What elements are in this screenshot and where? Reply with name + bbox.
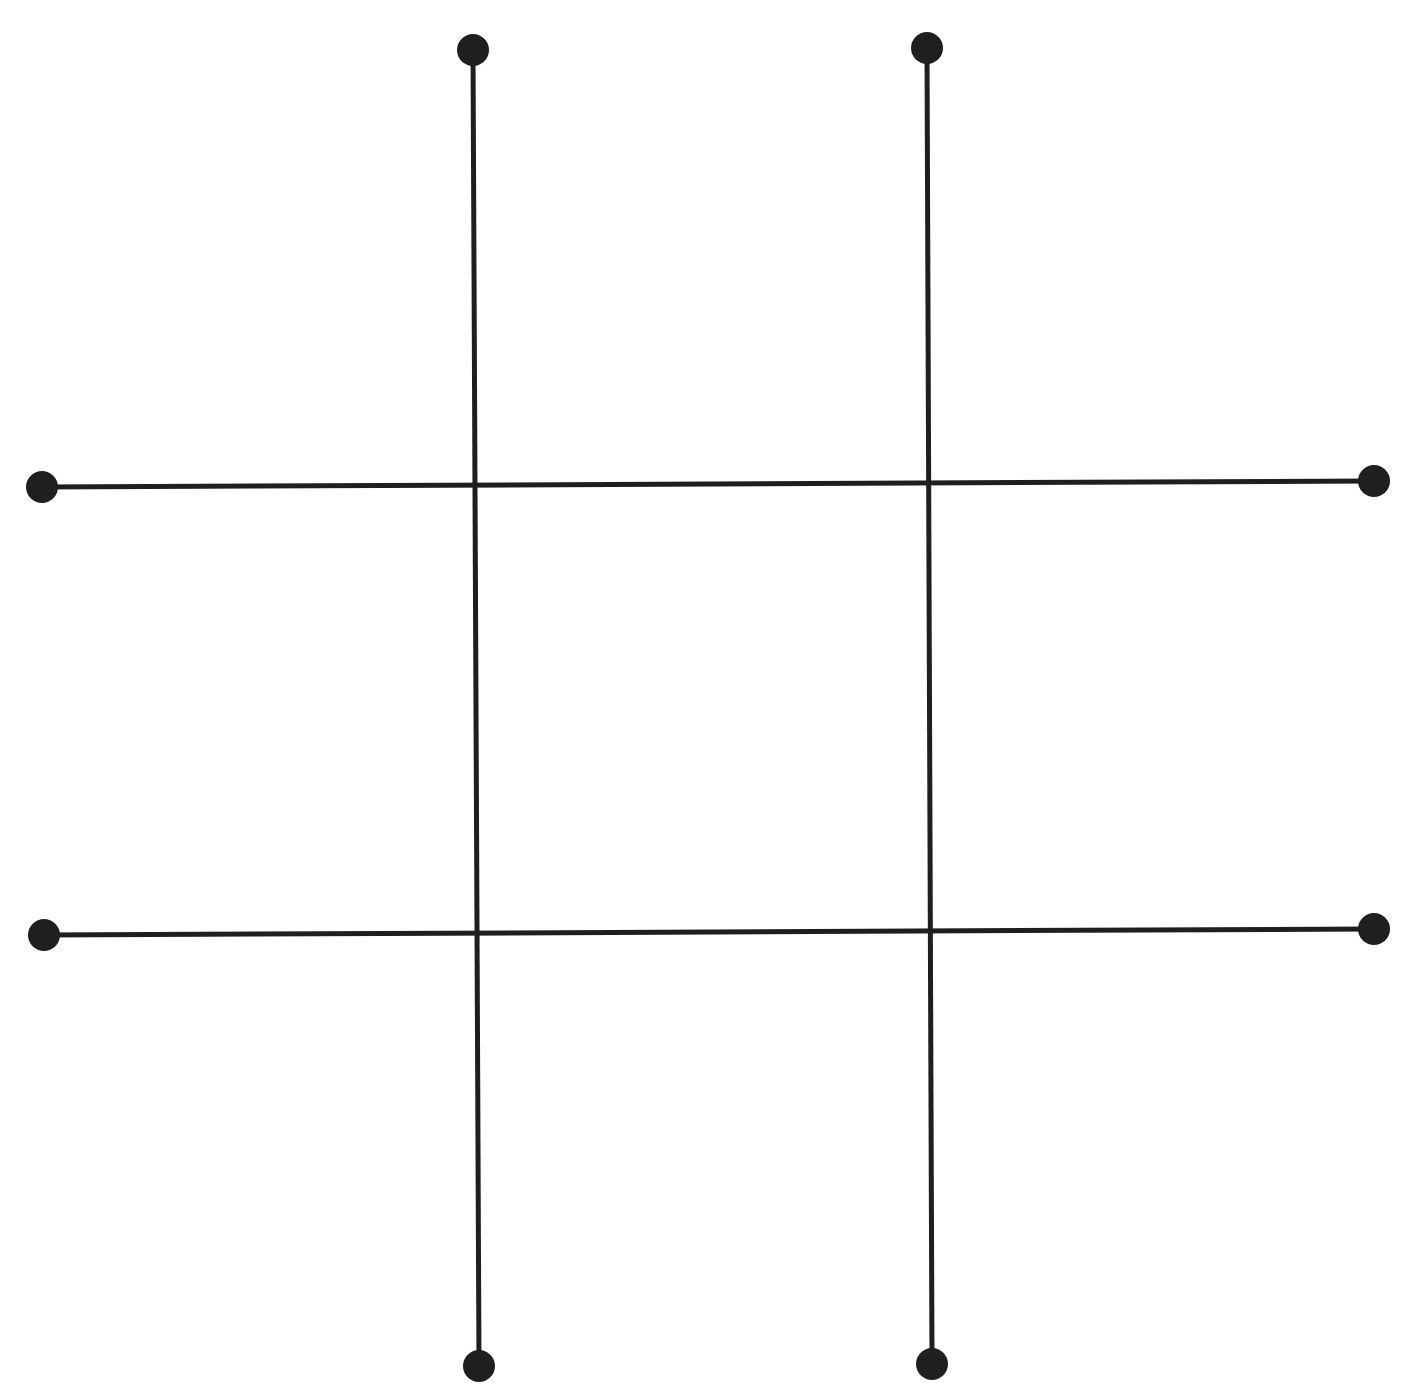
line-stroke — [42, 481, 1374, 487]
grid-line-horizontal-bottom — [28, 913, 1390, 951]
grid-line-vertical-left — [457, 34, 495, 1382]
endpoint-dot-start — [28, 919, 60, 951]
grid-line-horizontal-top — [26, 465, 1390, 503]
tic-tac-toe-grid — [0, 0, 1403, 1397]
endpoint-dot-end — [1358, 913, 1390, 945]
line-stroke — [473, 50, 479, 1366]
endpoint-dot-start — [911, 32, 943, 64]
endpoint-dot-end — [916, 1348, 948, 1380]
line-stroke — [44, 929, 1374, 935]
endpoint-dot-end — [1358, 465, 1390, 497]
grid-line-vertical-right — [911, 32, 948, 1380]
endpoint-dot-end — [463, 1350, 495, 1382]
line-stroke — [927, 48, 932, 1364]
endpoint-dot-start — [26, 471, 58, 503]
endpoint-dot-start — [457, 34, 489, 66]
